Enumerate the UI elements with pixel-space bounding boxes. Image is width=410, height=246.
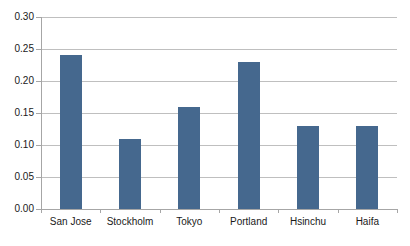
y-axis-tick-mark <box>36 49 41 50</box>
bar <box>178 107 200 209</box>
bar <box>356 126 378 209</box>
bar-column <box>338 17 397 209</box>
x-axis-tick-label: Portland <box>219 215 278 228</box>
bar-column <box>160 17 219 209</box>
bar-column <box>278 17 337 209</box>
x-axis-tick-mark <box>278 209 279 213</box>
x-axis-tick-mark <box>41 209 42 213</box>
bar <box>238 62 260 209</box>
x-axis-tick-label: Stockholm <box>100 215 159 228</box>
bar <box>119 139 141 209</box>
y-axis-tick-mark <box>36 81 41 82</box>
bar <box>60 55 82 209</box>
x-axis-tick-label: Haifa <box>338 215 397 228</box>
y-axis-tick-label: 0.20 <box>0 76 34 86</box>
x-axis-tick-mark <box>397 209 398 213</box>
y-axis-tick-mark <box>36 145 41 146</box>
y-axis-tick-label: 0.05 <box>0 172 34 182</box>
y-axis-line <box>41 17 42 210</box>
x-axis-tick-mark <box>160 209 161 213</box>
x-axis-tick-label: San Jose <box>41 215 100 228</box>
x-axis-tick-labels: San JoseStockholmTokyoPortlandHsinchuHai… <box>41 215 397 235</box>
x-axis-tick-label: Tokyo <box>160 215 219 228</box>
y-axis-tick-label: 0.00 <box>0 204 34 214</box>
bar-chart: 0.000.050.100.150.200.250.30 San JoseSto… <box>0 0 410 246</box>
x-axis-tick-mark <box>100 209 101 213</box>
bar <box>297 126 319 209</box>
y-axis-tick-mark <box>36 17 41 18</box>
y-axis-tick-mark <box>36 177 41 178</box>
bar-column <box>100 17 159 209</box>
x-axis-tick-label: Hsinchu <box>278 215 337 228</box>
plot-area <box>41 17 397 209</box>
bar-column <box>41 17 100 209</box>
y-axis-tick-label: 0.10 <box>0 140 34 150</box>
x-axis-tick-mark <box>219 209 220 213</box>
y-axis-tick-labels: 0.000.050.100.150.200.250.30 <box>0 0 34 246</box>
y-axis-tick-label: 0.15 <box>0 108 34 118</box>
y-axis-tick-label: 0.30 <box>0 12 34 22</box>
y-axis-tick-label: 0.25 <box>0 44 34 54</box>
bar-column <box>219 17 278 209</box>
y-axis-tick-mark <box>36 113 41 114</box>
x-axis-tick-mark <box>338 209 339 213</box>
